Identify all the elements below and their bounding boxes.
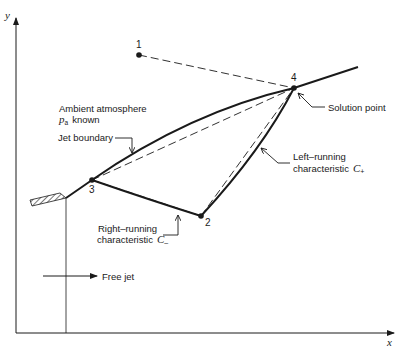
point-3-label: 3 xyxy=(89,184,95,195)
ambient-pressure-label: paknown xyxy=(58,113,100,126)
right-running-label-line2: characteristicC– xyxy=(97,233,168,246)
dashed-approximations xyxy=(92,55,294,216)
free-jet-label: Free jet xyxy=(102,271,135,282)
left-running-leader xyxy=(261,148,290,163)
point-4 xyxy=(291,85,297,91)
point-4-label: 4 xyxy=(291,72,297,83)
dashed-1-to-4 xyxy=(139,55,294,88)
y-axis-label: y xyxy=(4,9,10,21)
left-running-label-line1: Left–running xyxy=(293,151,346,162)
point-1-label: 1 xyxy=(136,39,142,50)
dashed-2-to-4 xyxy=(201,88,294,216)
solution-point-leader xyxy=(298,93,325,107)
left-running-label-line2: characteristicC+ xyxy=(293,162,364,175)
jet-boundary-label: Jet boundary xyxy=(58,132,113,143)
solution-point-label: Solution point xyxy=(328,102,386,113)
point-3 xyxy=(89,177,95,183)
diagram-canvas: y 1 2 3 4 Ambient atmosphere paknown Jet… xyxy=(0,0,400,348)
right-running-leader xyxy=(163,215,178,235)
nozzle-wall xyxy=(30,193,66,206)
x-axis-label-main: x xyxy=(386,336,392,348)
dashed-3-to-4 xyxy=(92,88,294,180)
jet-boundary-leader xyxy=(115,138,132,153)
point-2 xyxy=(198,213,204,219)
ambient-atmosphere-label: Ambient atmosphere xyxy=(59,103,147,114)
point-1 xyxy=(136,52,142,58)
right-running-label-line1: Right–running xyxy=(98,223,157,234)
point-2-label: 2 xyxy=(205,217,211,228)
